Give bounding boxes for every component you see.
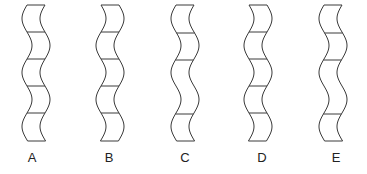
figure-canvas <box>0 0 367 174</box>
wavy-strip-c <box>171 5 199 141</box>
strip-outline <box>171 5 199 141</box>
option-label-b: B <box>99 150 119 165</box>
option-label-e: E <box>326 150 346 165</box>
strip-outline <box>319 5 347 141</box>
wavy-strip-a <box>22 5 50 141</box>
option-label-d: D <box>252 150 272 165</box>
option-label-c: C <box>175 150 195 165</box>
wavy-strip-e <box>319 5 347 141</box>
strip-outline <box>22 5 50 141</box>
wavy-strip-d <box>244 5 272 141</box>
strip-outline <box>244 5 272 141</box>
option-label-a: A <box>22 150 42 165</box>
wavy-strip-b <box>96 5 124 141</box>
strip-outline <box>96 5 124 141</box>
